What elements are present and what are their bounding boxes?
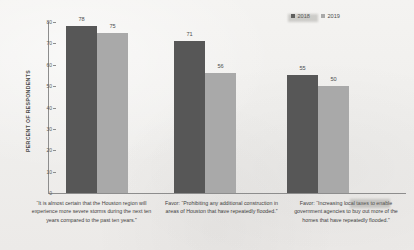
legend-swatch-icon (321, 14, 325, 18)
bar-value-label: 56 (205, 63, 236, 69)
bar-value-label: 75 (97, 23, 128, 29)
bar-value-label: 71 (174, 31, 205, 37)
legend-item-2019[interactable]: 2019 (321, 13, 340, 19)
category-caption-group: “It is almost certain that the Houston r… (0, 199, 414, 249)
category-caption-2: Favor: “Prohibiting any additional const… (163, 199, 280, 216)
y-axis-tick-mark (53, 193, 56, 194)
bar-2019-1[interactable]: 75 (97, 33, 128, 193)
bar-2018-3[interactable]: 55 (287, 75, 318, 193)
bar-2018-1[interactable]: 78 (66, 26, 97, 193)
bar-2019-3[interactable]: 50 (318, 86, 349, 193)
bar-group: 7875 (66, 22, 128, 193)
bar-2019-2[interactable]: 56 (205, 73, 236, 193)
chart-legend: 20182019 (291, 13, 340, 19)
category-caption-1: “It is almost certain that the Houston r… (26, 199, 157, 224)
bar-value-label: 50 (318, 76, 349, 82)
x-axis-line (48, 193, 406, 194)
legend-label: 2019 (327, 13, 339, 19)
bar-value-label: 55 (287, 65, 318, 71)
bar-value-label: 78 (66, 16, 97, 22)
bar-group: 7156 (174, 22, 236, 193)
bar-group: 5550 (287, 22, 349, 193)
category-caption-3: Favor: “Increasing local taxes to enable… (288, 199, 404, 224)
bar-2018-2[interactable]: 71 (174, 41, 205, 193)
legend-swatch-icon (291, 14, 295, 18)
legend-label: 2018 (298, 13, 310, 19)
plot-area: 787571565550 (49, 22, 406, 193)
legend-item-2018[interactable]: 2018 (291, 13, 310, 19)
chart-page: PERCENT OF RESPONDENTS 80706050403020100… (0, 0, 414, 250)
